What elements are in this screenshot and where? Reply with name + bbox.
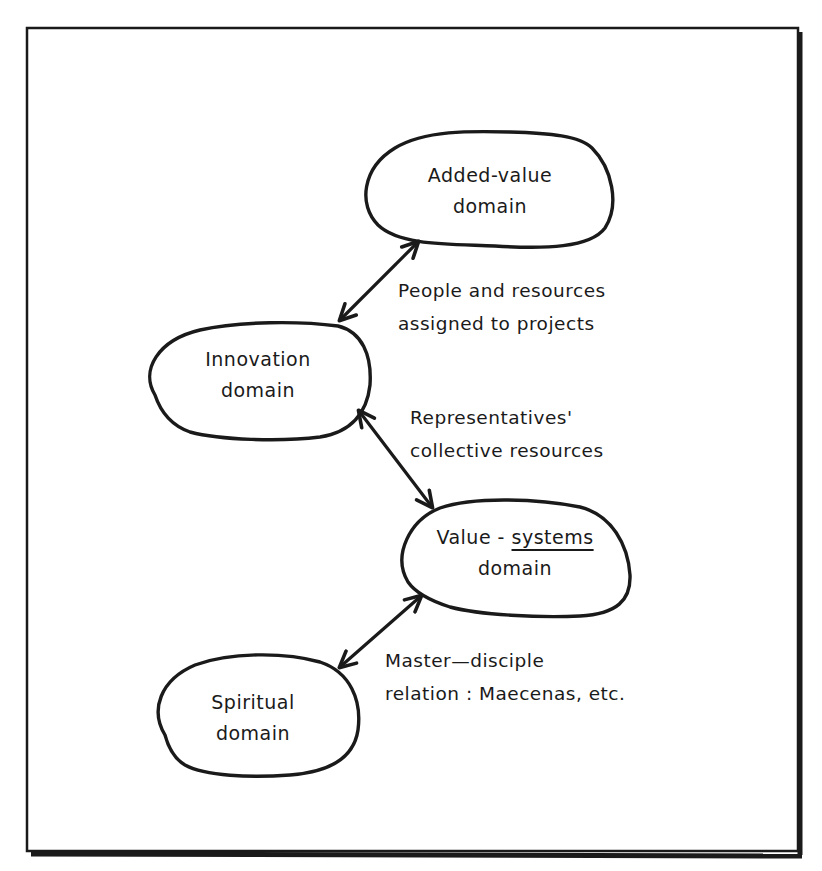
edge-innovation-value-systems-label: Representatives' collective resources [410, 409, 604, 460]
node-value-systems-line1-underlined: systems [512, 526, 594, 548]
node-added-value-line1: Added-value [428, 166, 552, 185]
node-value-systems-label: Value - systems domain [436, 528, 593, 578]
node-spiritual-line2: domain [211, 724, 294, 743]
node-value-systems-line2: domain [436, 559, 593, 578]
node-innovation-line2: domain [205, 381, 311, 400]
edge-2-label-line2: collective resources [410, 442, 604, 461]
node-spiritual-line1: Spiritual [211, 693, 294, 712]
node-value-systems-line1: Value - systems [436, 528, 593, 547]
edge-3-label-line1: Master—disciple [385, 652, 625, 671]
node-spiritual-label: Spiritual domain [211, 693, 294, 743]
diagram-canvas: Added-value domain Innovation domain Val… [0, 0, 822, 871]
node-innovation-label: Innovation domain [205, 350, 311, 400]
edge-2-label-line1: Representatives' [410, 409, 604, 428]
node-value-systems-line1-prefix: Value - [436, 526, 511, 548]
edge-innovation-added-value-label: People and resources assigned to project… [398, 282, 606, 333]
edge-spiritual-value-systems-label: Master—disciple relation : Maecenas, etc… [385, 652, 625, 703]
edge-3-label-line2: relation : Maecenas, etc. [385, 685, 625, 704]
edge-1-label-line1: People and resources [398, 282, 606, 301]
node-innovation-line1: Innovation [205, 350, 311, 369]
node-added-value-line2: domain [428, 197, 552, 216]
edge-1-label-line2: assigned to projects [398, 315, 606, 334]
node-added-value-label: Added-value domain [428, 166, 552, 216]
